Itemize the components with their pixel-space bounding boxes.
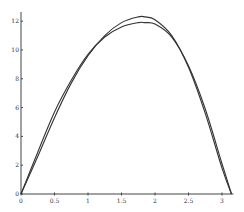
series-line-curve-1 xyxy=(21,16,231,194)
x-tick-label: 0 xyxy=(19,197,23,204)
y-tick-label: 6 xyxy=(15,104,19,111)
series-line-curve-2 xyxy=(21,22,231,194)
x-tick-label: 2 xyxy=(153,197,157,204)
y-tick-label: 4 xyxy=(15,132,19,139)
y-tick-label: 0 xyxy=(15,190,19,197)
x-tick-label: 0.5 xyxy=(50,197,60,204)
y-tick-label: 8 xyxy=(15,75,19,82)
y-tick-label: 10 xyxy=(11,46,19,53)
y-tick-label: 2 xyxy=(15,161,19,168)
x-tick-label: 1.5 xyxy=(117,197,127,204)
x-tick-label: 3 xyxy=(220,197,224,204)
line-chart: 00.511.522.53 024681012 xyxy=(0,0,244,212)
x-tick-label: 1 xyxy=(86,197,90,204)
y-tick-label: 12 xyxy=(11,17,19,24)
plot-lines xyxy=(21,16,231,194)
x-tick-label: 2.5 xyxy=(184,197,194,204)
